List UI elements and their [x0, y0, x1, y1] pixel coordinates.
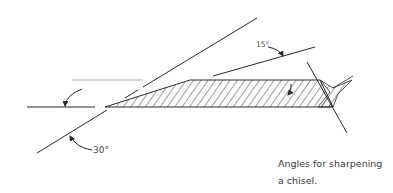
caption-line-2: a chisel. — [278, 172, 382, 189]
primary-angle-line-upper — [143, 18, 257, 87]
caption-line-1: Angles for sharpening — [278, 155, 382, 172]
angle-label-15: 15° — [256, 40, 270, 49]
angle-arrow-30 — [70, 136, 92, 150]
angle-label-30: 30° — [93, 145, 109, 155]
angle-arrow-15 — [268, 47, 283, 56]
secondary-angle-line — [213, 47, 315, 76]
figure-caption: Angles for sharpening a chisel. — [278, 155, 382, 189]
angle-arrow-upper-left — [65, 89, 82, 106]
chisel-body — [105, 80, 333, 107]
